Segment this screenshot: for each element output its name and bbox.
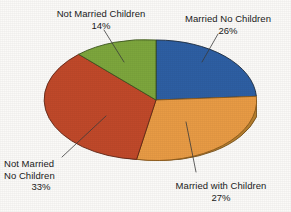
slice-label-text: Not Married [4, 158, 54, 169]
slice-label-text: Not Married Children [57, 8, 146, 19]
slice-label-married-with-children: Married with Children 27% [158, 180, 284, 203]
slice-percent-text: 26% [170, 25, 286, 37]
slice-percent-text: 33% [4, 181, 78, 193]
slice-label-married-no-children: Married No Children 26% [170, 13, 286, 36]
slice-percent-text: 27% [158, 192, 284, 204]
slice-label-text-line2: No Children [4, 170, 55, 181]
pie-top-face [44, 40, 257, 161]
slice-label-text: Married No Children [185, 13, 271, 24]
slice-label-not-married-children: Not Married Children 14% [42, 8, 160, 31]
slice-label-not-married-no-children: Not Married No Children 33% [4, 158, 88, 193]
slice-label-text: Married with Children [176, 180, 267, 191]
slice-married-with-children [137, 96, 257, 160]
pie-chart-figure: Not Married Children 14% Married No Chil… [0, 0, 291, 212]
slice-married-no-children [156, 40, 256, 100]
slice-percent-text: 14% [42, 20, 160, 32]
chart-stage: Not Married Children 14% Married No Chil… [0, 0, 291, 212]
